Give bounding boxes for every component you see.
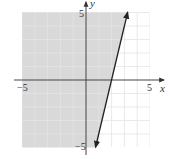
inequality-graph: −5 5 5 −5 x y <box>0 0 170 159</box>
y-tick-label-neg5: −5 <box>75 141 86 152</box>
y-tick-label-5: 5 <box>79 8 84 19</box>
x-tick-label-neg5: −5 <box>17 82 28 93</box>
x-tick-label-5: 5 <box>147 82 152 93</box>
y-axis-label: y <box>89 0 95 9</box>
x-axis-label: x <box>159 82 165 94</box>
